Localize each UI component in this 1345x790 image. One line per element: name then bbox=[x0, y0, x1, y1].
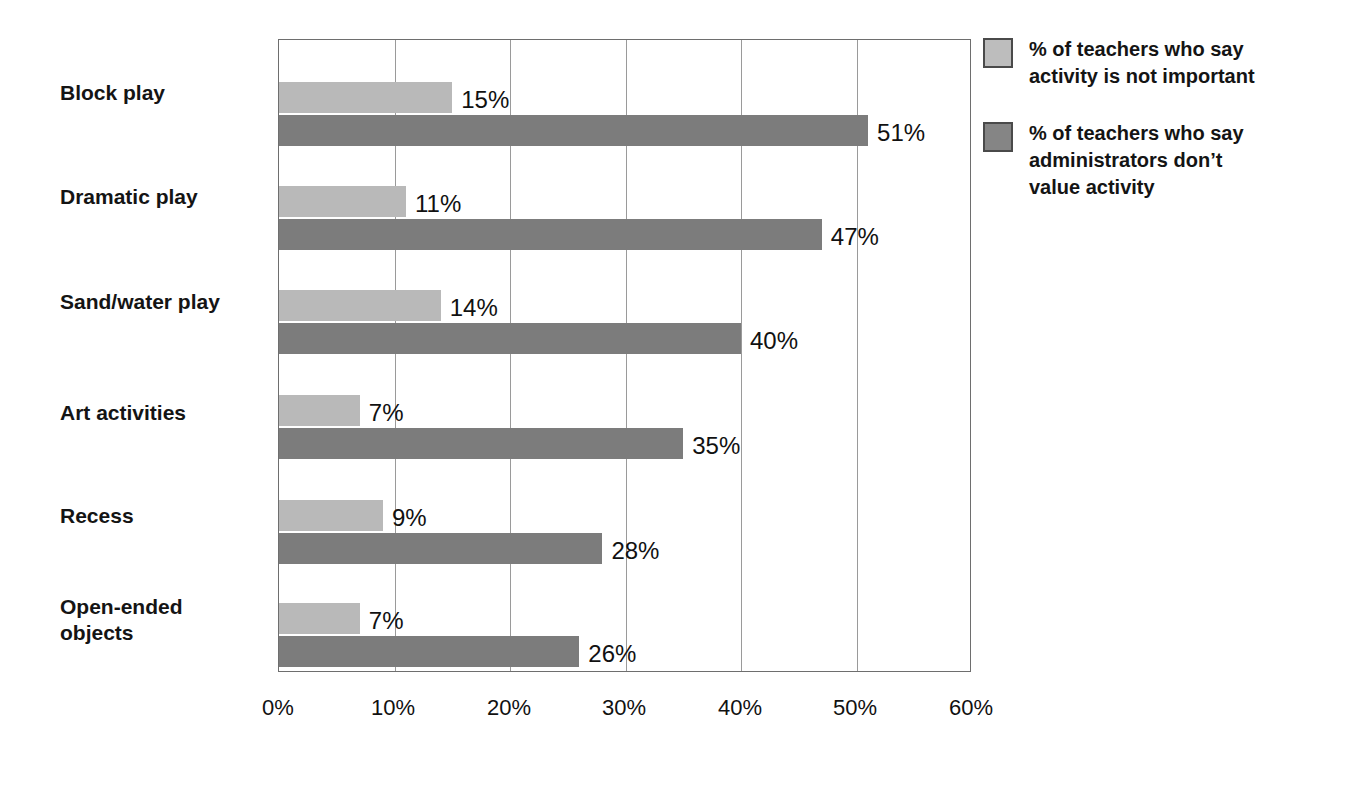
category-label-2: Sand/water play bbox=[60, 289, 270, 315]
bar-0-1 bbox=[279, 115, 868, 146]
xtick-label-1: 10% bbox=[348, 697, 438, 719]
xtick-label-2: 20% bbox=[464, 697, 554, 719]
bar-3-0 bbox=[279, 395, 360, 426]
category-label-3: Art activities bbox=[60, 400, 270, 426]
bar-value-label-1-0: 11% bbox=[415, 192, 461, 216]
bar-5-0 bbox=[279, 603, 360, 634]
legend-swatch-light-icon bbox=[983, 38, 1013, 68]
bar-4-0 bbox=[279, 500, 383, 531]
xtick-label-3: 30% bbox=[579, 697, 669, 719]
legend-item-1: % of teachers who say administrators don… bbox=[983, 120, 1323, 201]
bar-value-label-2-1: 40% bbox=[750, 329, 798, 353]
legend-label-0: % of teachers who say activity is not im… bbox=[1029, 36, 1255, 90]
bar-0-0 bbox=[279, 82, 452, 113]
category-label-5: Open-ended objects bbox=[60, 594, 270, 646]
bar-value-label-4-0: 9% bbox=[392, 506, 427, 530]
bar-value-label-3-1: 35% bbox=[692, 434, 740, 458]
xtick-label-0: 0% bbox=[233, 697, 323, 719]
bar-2-0 bbox=[279, 290, 441, 321]
xtick-label-4: 40% bbox=[695, 697, 785, 719]
category-label-0: Block play bbox=[60, 80, 270, 106]
chart-root: Block play Dramatic play Sand/water play… bbox=[0, 0, 1345, 790]
bar-value-label-3-0: 7% bbox=[369, 401, 404, 425]
bar-4-1 bbox=[279, 533, 602, 564]
bar-value-label-2-0: 14% bbox=[450, 296, 498, 320]
legend-item-0: % of teachers who say activity is not im… bbox=[983, 36, 1323, 90]
bar-3-1 bbox=[279, 428, 683, 459]
bar-value-label-4-1: 28% bbox=[611, 539, 659, 563]
category-label-4: Recess bbox=[60, 503, 270, 529]
bar-5-1 bbox=[279, 636, 579, 667]
category-label-1: Dramatic play bbox=[60, 184, 270, 210]
bar-1-0 bbox=[279, 186, 406, 217]
xtick-label-5: 50% bbox=[810, 697, 900, 719]
legend-label-1: % of teachers who say administrators don… bbox=[1029, 120, 1244, 201]
bar-2-1 bbox=[279, 323, 741, 354]
legend: % of teachers who say activity is not im… bbox=[983, 36, 1323, 231]
legend-swatch-dark-icon bbox=[983, 122, 1013, 152]
bar-value-label-1-1: 47% bbox=[831, 225, 879, 249]
bar-1-1 bbox=[279, 219, 822, 250]
bar-value-label-5-1: 26% bbox=[588, 642, 636, 666]
plot-area: 15%51%11%47%14%40%7%35%9%28%7%26% bbox=[278, 39, 971, 672]
bar-value-label-5-0: 7% bbox=[369, 609, 404, 633]
xtick-label-6: 60% bbox=[926, 697, 1016, 719]
bar-value-label-0-0: 15% bbox=[461, 88, 509, 112]
bar-value-label-0-1: 51% bbox=[877, 121, 925, 145]
